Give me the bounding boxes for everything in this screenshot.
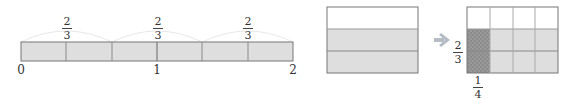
arrow-icon [434,33,450,47]
row-fraction: 2 3 [451,40,465,65]
tick-label-1: 1 [151,64,163,76]
col-fraction: 1 4 [471,75,485,99]
right-grid [467,7,558,73]
diagram-canvas [0,0,572,99]
left-rectangle [327,7,418,73]
denominator: 3 [151,30,165,41]
tick-label-0: 0 [15,64,27,76]
numerator: 2 [60,16,74,27]
numerator: 2 [451,40,465,51]
denominator: 4 [471,89,485,99]
numerator: 2 [241,16,255,27]
numerator: 2 [151,16,165,27]
denominator: 3 [60,30,74,41]
tick-label-2: 2 [287,64,299,76]
segment-fraction-1: 2 3 [60,16,74,41]
numerator: 1 [471,75,485,86]
segment-fraction-3: 2 3 [241,16,255,41]
denominator: 3 [241,30,255,41]
segment-fraction-2: 2 3 [151,16,165,41]
denominator: 3 [451,54,465,65]
number-line-bar [21,42,293,61]
